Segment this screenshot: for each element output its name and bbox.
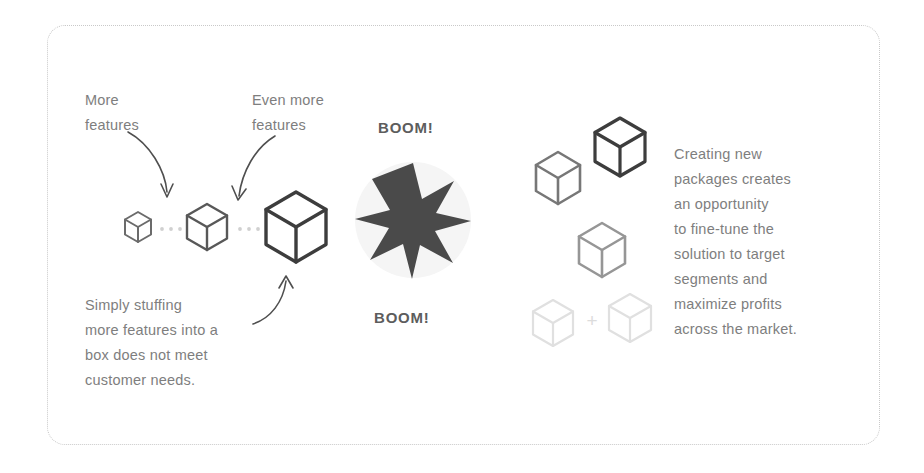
plus-sign-icon: + <box>586 310 597 331</box>
boom-label-bottom: BOOM! <box>374 309 430 326</box>
package-cube-top-right-icon <box>595 118 645 176</box>
small-cube-icon <box>125 212 151 242</box>
boom-label-top: BOOM! <box>378 119 434 136</box>
star-burst-icon <box>348 155 478 285</box>
dotted-connector-2 <box>238 227 260 231</box>
large-cube-icon <box>266 192 326 262</box>
arrow-to-large-cube-icon <box>245 268 315 330</box>
package-cube-faint-left-icon <box>533 300 573 346</box>
slide-canvas: More features Even more features Simply … <box>0 0 924 473</box>
package-cube-faint-right-icon <box>609 294 651 342</box>
package-cube-cluster: + <box>520 110 680 360</box>
medium-cube-icon <box>187 204 227 250</box>
package-cube-center-icon <box>579 223 625 277</box>
cube-progression-group <box>110 185 340 275</box>
dotted-connector-1 <box>160 227 182 231</box>
package-cube-mid-left-icon <box>536 152 580 204</box>
label-creating-new-packages-caption: Creating new packages creates an opportu… <box>674 142 854 342</box>
